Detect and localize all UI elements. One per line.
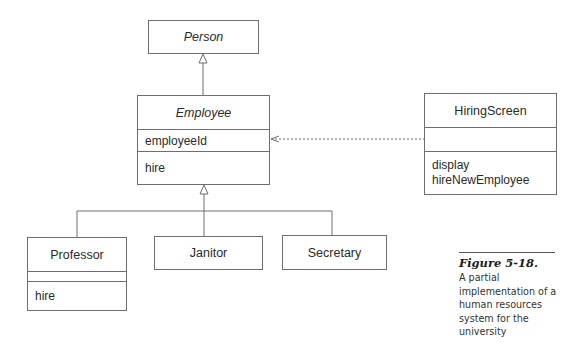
class-name: Professor: [28, 238, 126, 271]
operation-hire: hire: [35, 289, 55, 303]
class-employee[interactable]: Employee employeeId hire: [137, 95, 270, 185]
class-name: Secretary: [283, 236, 386, 269]
class-name: Person: [149, 21, 258, 53]
operations-compartment: hire: [138, 151, 269, 184]
class-janitor[interactable]: Janitor: [154, 236, 263, 270]
class-hiring-screen[interactable]: HiringScreen display hireNewEmployee: [424, 93, 557, 195]
figure-caption: Figure 5-18. A partial implementation of…: [459, 252, 559, 339]
class-name: Janitor: [155, 237, 262, 269]
caption-title: Figure 5-18.: [459, 256, 559, 270]
operation-display: display: [432, 158, 549, 173]
operations-compartment: hire: [28, 281, 126, 310]
class-secretary[interactable]: Secretary: [282, 235, 387, 270]
operation-hire: hire: [145, 161, 165, 175]
class-name: HiringScreen: [425, 94, 556, 127]
operations-compartment: display hireNewEmployee: [425, 151, 556, 194]
caption-body: A partial implementation of a human reso…: [459, 271, 559, 339]
generalization-arrowhead-icon: [200, 185, 208, 194]
generalization-arrowhead-icon: [199, 54, 207, 63]
attribute-employee-id: employeeId: [145, 134, 207, 148]
caption-rule: [459, 252, 555, 253]
class-name: Employee: [138, 96, 269, 129]
class-professor[interactable]: Professor hire: [27, 237, 127, 311]
attributes-compartment: [425, 127, 556, 151]
attributes-compartment: [28, 271, 126, 281]
class-person[interactable]: Person: [148, 20, 259, 54]
attributes-compartment: employeeId: [138, 129, 269, 151]
operation-hire-new-employee: hireNewEmployee: [432, 173, 549, 188]
